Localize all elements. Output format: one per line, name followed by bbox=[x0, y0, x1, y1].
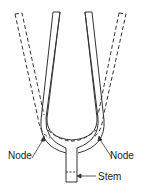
tuning-fork-deflected-outline bbox=[15, 13, 126, 141]
node-label-right: Node bbox=[110, 151, 134, 161]
tuning-fork-diagram bbox=[0, 0, 145, 192]
tuning-fork-rest-outline bbox=[41, 12, 104, 182]
node-left-arrow bbox=[32, 136, 45, 158]
stem-arrow bbox=[77, 174, 96, 178]
node-label-left: Node bbox=[8, 151, 32, 161]
stem-label: Stem bbox=[98, 172, 121, 182]
